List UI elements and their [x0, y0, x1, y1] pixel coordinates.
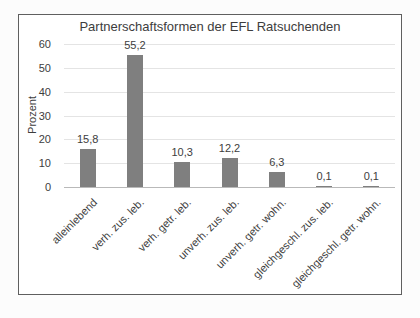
bar-value-label: 12,2 — [207, 142, 253, 155]
y-tick-label: 0 — [19, 180, 51, 194]
bar — [363, 186, 379, 187]
category-label: gleichgeschl. getr. wohn. — [289, 196, 383, 290]
y-tick-label: 50 — [19, 61, 51, 75]
bar — [80, 149, 96, 187]
chart-figure: Partnerschaftsformen der EFL Ratsuchende… — [0, 0, 420, 318]
bar — [269, 172, 285, 187]
y-tick-label: 30 — [19, 109, 51, 123]
bar — [174, 162, 190, 187]
bar — [316, 186, 332, 187]
bar — [127, 55, 143, 187]
y-tick-label: 10 — [19, 156, 51, 170]
category-label: gleichgeschl. zus. leb. — [251, 196, 336, 281]
gridline — [64, 68, 395, 69]
bar-value-label: 10,3 — [159, 146, 205, 159]
bar-value-label: 0,1 — [348, 170, 394, 183]
gridline — [64, 92, 395, 93]
bar-value-label: 55,2 — [112, 39, 158, 52]
y-tick-label: 60 — [19, 37, 51, 51]
bar-value-label: 0,1 — [301, 170, 347, 183]
category-label: alleinlebend — [49, 196, 99, 246]
gridline — [64, 116, 395, 117]
gridline — [64, 139, 395, 140]
bar-value-label: 6,3 — [254, 156, 300, 169]
chart-frame: Partnerschaftsformen der EFL Ratsuchende… — [18, 14, 402, 295]
bar — [222, 158, 238, 187]
chart-title: Partnerschaftsformen der EFL Ratsuchende… — [19, 19, 401, 35]
y-tick-label: 20 — [19, 132, 51, 146]
bar-value-label: 15,8 — [65, 133, 111, 146]
x-axis-line — [64, 187, 395, 188]
y-tick-label: 40 — [19, 85, 51, 99]
